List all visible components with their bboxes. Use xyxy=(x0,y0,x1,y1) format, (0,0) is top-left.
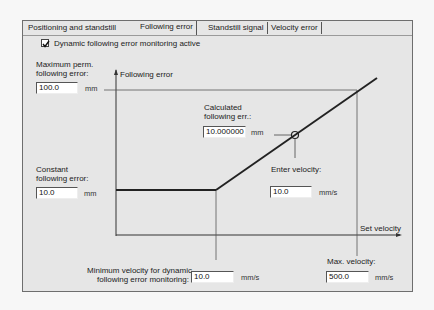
calculated-error-output: 10.000000 xyxy=(203,126,246,138)
max-velocity-label: Max. velocity: xyxy=(327,257,375,266)
min-velocity-label-line1: Minimum velocity for dynamic xyxy=(87,266,189,275)
constant-error-unit: mm xyxy=(84,189,97,198)
dynamic-monitoring-label: Dynamic following error monitoring activ… xyxy=(54,39,200,48)
enter-velocity-input[interactable]: 10.0 xyxy=(270,186,312,198)
enter-velocity-unit: mm/s xyxy=(319,188,337,197)
max-perm-error-input[interactable]: 100.0 xyxy=(36,82,78,94)
y-axis-arrow-icon xyxy=(114,69,118,75)
min-velocity-label-line2: following error monitoring: xyxy=(87,275,189,284)
max-perm-error-label-line2: following error: xyxy=(36,69,88,78)
x-axis-arrow-icon xyxy=(396,233,402,237)
enter-velocity-label: Enter velocity: xyxy=(271,165,321,174)
max-perm-error-label-line1: Maximum perm. xyxy=(36,60,93,69)
constant-error-label-line2: following error: xyxy=(36,174,88,183)
max-velocity-input[interactable]: 500.0 xyxy=(326,271,369,283)
y-axis-label: Following error xyxy=(120,70,173,79)
constant-error-label-line1: Constant xyxy=(36,165,68,174)
checkmark-icon xyxy=(41,39,51,49)
min-velocity-input[interactable]: 10.0 xyxy=(191,271,234,283)
max-velocity-unit: mm/s xyxy=(375,273,393,282)
x-axis-label: Set velocity xyxy=(360,224,401,233)
dynamic-monitoring-checkbox[interactable] xyxy=(41,39,49,47)
constant-error-input[interactable]: 10.0 xyxy=(36,187,78,199)
max-perm-error-unit: mm xyxy=(85,84,98,93)
calculated-error-label-line2: following err.: xyxy=(204,112,251,121)
min-velocity-unit: mm/s xyxy=(241,273,259,282)
calculated-error-label-line1: Calculated xyxy=(204,103,242,112)
calculated-error-unit: mm xyxy=(251,128,264,137)
